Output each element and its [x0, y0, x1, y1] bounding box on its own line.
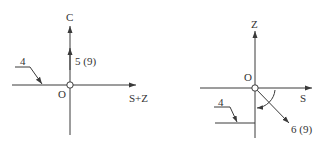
vector-6-arrow — [255, 88, 289, 123]
s-axis-label: S — [300, 93, 306, 104]
leader-4-label: 4 — [218, 97, 224, 108]
origin-label: O — [244, 72, 252, 83]
origin-circle-icon — [252, 85, 258, 91]
z-axis-label: Z — [251, 19, 258, 30]
leader-4-line — [214, 107, 237, 122]
vector-6-label: 6 (9) — [291, 124, 312, 135]
diagram-canvas: C 5 (9) 4 O S+Z — [0, 0, 325, 149]
right-diagram-graphics — [0, 0, 325, 149]
